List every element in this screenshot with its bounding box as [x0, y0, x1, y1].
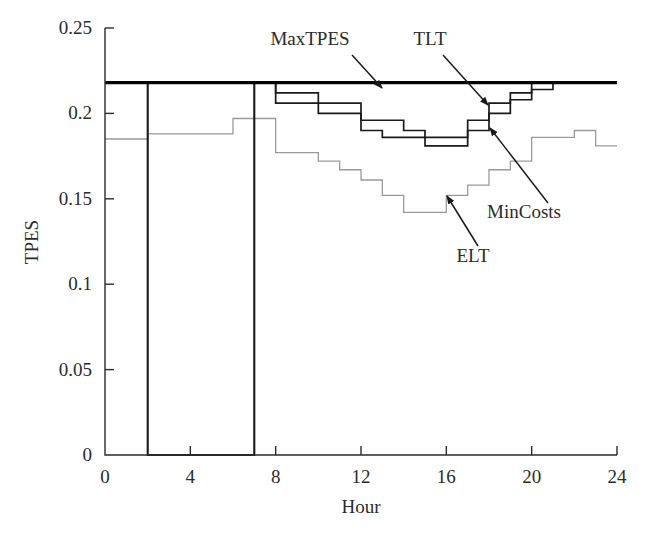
y-tick-label: 0.1: [68, 273, 92, 294]
x-tick-label: 24: [608, 466, 628, 487]
x-tick-label: 12: [352, 466, 371, 487]
x-tick-label: 20: [522, 466, 541, 487]
y-tick-label: 0.2: [68, 102, 92, 123]
chart-figure: 00.050.10.150.20.2504812162024 MaxTPESTL…: [0, 0, 658, 536]
x-tick-label: 16: [437, 466, 456, 487]
series-annotation-mincosts: MinCosts: [487, 201, 561, 222]
series-annotation-elt: ELT: [456, 245, 489, 266]
x-tick-label: 0: [100, 466, 110, 487]
y-tick-label: 0.15: [59, 188, 92, 209]
y-tick-label: 0.25: [59, 17, 92, 38]
x-tick-label: 4: [186, 466, 196, 487]
y-tick-label: 0.05: [59, 359, 92, 380]
x-tick-label: 8: [271, 466, 281, 487]
y-axis-title: TPES: [21, 220, 42, 264]
series-annotation-maxtpes: MaxTPES: [270, 28, 349, 49]
series-annotation-tlt: TLT: [413, 28, 446, 49]
y-tick-label: 0: [83, 444, 93, 465]
x-axis-title: Hour: [341, 496, 381, 517]
